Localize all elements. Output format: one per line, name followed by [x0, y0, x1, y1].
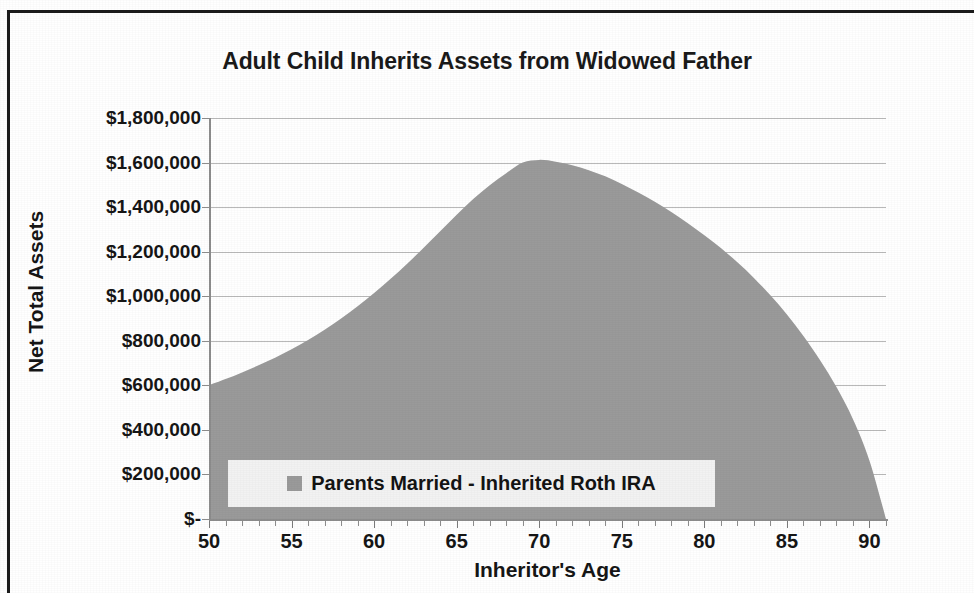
y-axis-tick-label: $800,000	[122, 330, 201, 352]
y-axis-tick-label: $1,400,000	[106, 196, 201, 218]
y-axis-tick	[202, 430, 209, 431]
plot-area	[209, 118, 886, 519]
y-axis-tick	[202, 296, 209, 297]
y-axis-tick-label: $1,200,000	[106, 241, 201, 263]
x-axis-tick-label: 55	[280, 530, 302, 553]
legend-label: Parents Married - Inherited Roth IRA	[311, 472, 656, 495]
chart-screenshot: Adult Child Inherits Assets from Widowed…	[0, 0, 974, 593]
y-axis-tick	[202, 252, 209, 253]
y-axis-tick	[202, 118, 209, 119]
x-axis-tick-label: 65	[446, 530, 468, 553]
y-axis-tick	[202, 385, 209, 386]
y-axis-title: Net Total Assets	[24, 172, 48, 412]
y-axis-tick-label: $200,000	[122, 463, 201, 485]
y-axis-tick-label: $1,800,000	[106, 107, 201, 129]
y-axis-tick	[202, 474, 209, 475]
x-axis-title: Inheritor's Age	[209, 558, 886, 582]
y-axis-tick-label: $600,000	[122, 374, 201, 396]
y-axis-tick-label: $1,600,000	[106, 152, 201, 174]
x-axis-tick-label: 70	[528, 530, 550, 553]
chart-legend: Parents Married - Inherited Roth IRA	[228, 460, 715, 507]
area-series-parents-married-inherited-roth-ira	[209, 118, 886, 519]
y-axis-tick-label: $1,000,000	[106, 285, 201, 307]
y-axis-line	[209, 118, 211, 520]
chart-title: Adult Child Inherits Assets from Widowed…	[0, 48, 974, 75]
x-axis-tick-labels: 505560657075808590	[209, 530, 886, 556]
x-axis-tick-label: 75	[611, 530, 633, 553]
legend-swatch-icon	[287, 476, 302, 491]
x-axis-tick-label: 50	[198, 530, 220, 553]
x-axis-tick-label: 80	[693, 530, 715, 553]
y-axis-tick-labels: $1,800,000$1,600,000$1,400,000$1,200,000…	[50, 118, 201, 519]
x-axis-tick-label: 85	[776, 530, 798, 553]
y-axis-tick	[202, 207, 209, 208]
y-axis-tick	[202, 519, 209, 520]
x-axis-tick-label: 60	[363, 530, 385, 553]
y-axis-tick	[202, 341, 209, 342]
x-axis-line	[209, 519, 888, 521]
x-axis-tick-label: 90	[858, 530, 880, 553]
y-axis-tick-label: $400,000	[122, 419, 201, 441]
y-axis-tick-label: $-	[184, 508, 201, 530]
y-axis-tick	[202, 163, 209, 164]
